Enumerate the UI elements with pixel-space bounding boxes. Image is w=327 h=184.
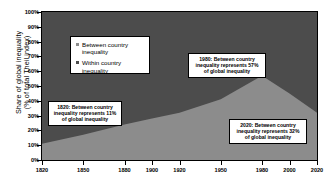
- x-tick-mark: [125, 161, 126, 165]
- y-tick-label: 0%: [13, 157, 39, 163]
- x-tick-label: 1850: [63, 167, 103, 173]
- y-tick-mark: [37, 27, 41, 28]
- legend-item-between-country: Between country inequality: [76, 41, 145, 55]
- y-tick-label: 40%: [13, 98, 39, 104]
- x-tick-mark: [221, 161, 222, 165]
- chart-legend: Between country inequality Within countr…: [70, 36, 150, 74]
- legend-swatch-icon: [76, 61, 79, 64]
- y-tick-label: 20%: [13, 127, 39, 133]
- y-tick-label: 100%: [13, 9, 39, 15]
- legend-item-within-country: Within country inequality: [76, 59, 145, 73]
- annotation-1980: 1980: Between country inequality represe…: [188, 53, 266, 78]
- y-tick-label: 80%: [13, 39, 39, 45]
- annotation-line: of global inequality: [233, 134, 303, 140]
- y-tick-mark: [37, 145, 41, 146]
- y-tick-mark: [37, 12, 41, 13]
- y-tick-label: 70%: [13, 53, 39, 59]
- y-tick-mark: [37, 130, 41, 131]
- x-tick-label: 1950: [201, 167, 241, 173]
- y-tick-label: 60%: [13, 68, 39, 74]
- x-tick-mark: [180, 161, 181, 165]
- annotation-line: of global inequality: [52, 116, 118, 122]
- y-tick-mark: [37, 160, 41, 161]
- x-tick-mark: [262, 161, 263, 165]
- x-tick-mark: [152, 161, 153, 165]
- legend-item-label: Within country inequality: [82, 59, 145, 73]
- x-tick-label: 2020: [297, 167, 327, 173]
- y-tick-mark: [37, 71, 41, 72]
- legend-item-label: Between country inequality: [82, 41, 145, 55]
- y-tick-mark: [37, 86, 41, 87]
- y-tick-label: 30%: [13, 113, 39, 119]
- x-tick-mark: [290, 161, 291, 165]
- x-tick-label: 1820: [22, 167, 62, 173]
- y-axis-tick-labels: 0%10%20%30%40%50%60%70%80%90%100%: [9, 0, 39, 184]
- y-tick-mark: [37, 116, 41, 117]
- x-tick-mark: [317, 161, 318, 165]
- inequality-area-chart: Share of global inequality (% of total T…: [0, 0, 327, 184]
- x-tick-mark: [83, 161, 84, 165]
- y-tick-label: 90%: [13, 24, 39, 30]
- annotation-2020: 2020: Between country inequality represe…: [229, 119, 307, 144]
- y-tick-mark: [37, 42, 41, 43]
- x-tick-label: 1920: [160, 167, 200, 173]
- y-tick-mark: [37, 101, 41, 102]
- x-tick-mark: [42, 161, 43, 165]
- legend-swatch-icon: [76, 43, 79, 46]
- y-tick-label: 10%: [13, 142, 39, 148]
- annotation-line: of global inequality: [192, 68, 262, 74]
- y-tick-mark: [37, 56, 41, 57]
- annotation-1820: 1820: Between country inequality represe…: [48, 101, 122, 126]
- y-tick-label: 50%: [13, 83, 39, 89]
